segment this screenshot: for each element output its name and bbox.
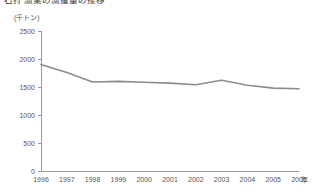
series-layer [0, 0, 313, 194]
data-series-line [41, 65, 299, 89]
chart-container: 石狩 漁業の漁獲量の推移 (千トン) 05001000150020002500 … [0, 0, 313, 194]
